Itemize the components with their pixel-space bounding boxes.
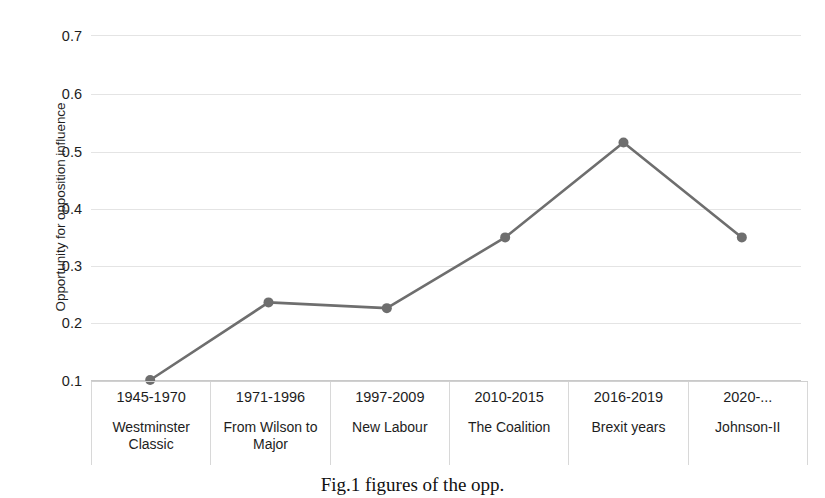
figure-caption: Fig.1 figures of the opp. — [0, 474, 825, 496]
data-point-marker — [619, 138, 629, 148]
y-tick-label: 0.6 — [36, 86, 82, 102]
data-point-marker — [264, 297, 274, 307]
x-axis-name-label: The Coalition — [468, 419, 551, 436]
x-axis-period-label: 1971-1996 — [236, 389, 305, 405]
x-axis-cell: 2016-2019 Brexit years — [568, 382, 687, 465]
x-axis-period-label: 2010-2015 — [474, 389, 543, 405]
y-tick-label: 0.1 — [36, 373, 82, 389]
y-tick-label: 0.3 — [36, 258, 82, 274]
x-axis-period-label: 2020-... — [723, 389, 772, 405]
x-axis-cell: 2010-2015 The Coalition — [449, 382, 568, 465]
figure-container: Opportunity for opposition influence 0.7… — [0, 0, 825, 498]
data-point-marker — [382, 303, 392, 313]
x-axis-name-label: Johnson-II — [715, 419, 780, 436]
data-point-marker — [737, 232, 747, 242]
x-axis-cell: 2020-... Johnson-II — [688, 382, 808, 465]
x-axis-period-label: 1945-1970 — [116, 389, 185, 405]
x-axis-period-label: 2016-2019 — [594, 389, 663, 405]
x-axis-cell: 1945-1970 Westminster Classic — [91, 382, 210, 465]
y-tick-label: 0.4 — [36, 201, 82, 217]
x-axis-name-label: Westminster Classic — [95, 419, 207, 453]
x-axis-cell: 1997-2009 New Labour — [330, 382, 449, 465]
x-axis-category-table: 1945-1970 Westminster Classic 1971-1996 … — [91, 381, 808, 465]
x-axis-name-label: New Labour — [352, 419, 428, 436]
series-line-chart — [91, 18, 801, 381]
series-markers — [145, 138, 747, 385]
x-axis-name-label: Brexit years — [592, 419, 666, 436]
y-tick-label: 0.7 — [36, 28, 82, 44]
plot-area — [91, 18, 801, 381]
x-axis-cell: 1971-1996 From Wilson to Major — [210, 382, 329, 465]
data-point-marker — [500, 232, 510, 242]
y-tick-label: 0.5 — [36, 144, 82, 160]
series-polyline — [150, 143, 742, 380]
y-tick-label: 0.2 — [36, 315, 82, 331]
x-axis-name-label: From Wilson to Major — [214, 419, 326, 453]
x-axis-period-label: 1997-2009 — [355, 389, 424, 405]
